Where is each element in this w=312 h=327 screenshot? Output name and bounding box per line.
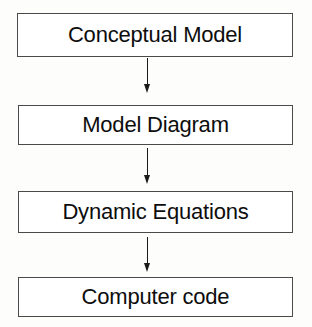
flow-node-label: Computer code (82, 286, 230, 308)
flow-node-dynamic-equations[interactable]: Dynamic Equations (18, 191, 293, 233)
flow-node-conceptual-model[interactable]: Conceptual Model (17, 13, 293, 57)
flow-node-label: Conceptual Model (68, 24, 242, 46)
arrow-stem (147, 58, 148, 85)
flow-arrow-model-diagram-to-dynamic-equations (143, 148, 151, 184)
arrow-head-icon (144, 84, 150, 93)
flow-node-model-diagram[interactable]: Model Diagram (18, 105, 293, 145)
arrow-stem (147, 237, 148, 264)
flow-node-computer-code[interactable]: Computer code (18, 277, 293, 317)
arrow-head-icon (144, 175, 150, 184)
flow-arrow-dynamic-equations-to-computer-code (143, 237, 151, 272)
flow-arrow-conceptual-model-to-model-diagram (143, 58, 151, 93)
flowchart-canvas: Conceptual Model Model Diagram Dynamic E… (0, 0, 312, 327)
flow-node-label: Dynamic Equations (62, 201, 248, 223)
arrow-head-icon (144, 263, 150, 272)
flow-node-label: Model Diagram (82, 114, 229, 136)
arrow-stem (147, 148, 148, 176)
